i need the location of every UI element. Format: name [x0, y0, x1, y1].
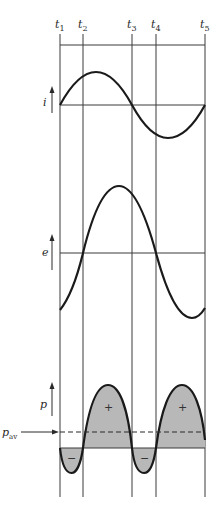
arrow-head-icon: [50, 234, 55, 241]
voltage-label: e: [42, 246, 49, 259]
positive-sign-2: +: [178, 401, 187, 414]
negative-sign-1: −: [67, 452, 76, 465]
current-label: i: [43, 96, 47, 109]
time-marker-labels: t1 t2 t3 t4 t5: [55, 18, 210, 33]
average-power-label: pav: [2, 426, 17, 441]
arrow-head-icon: [50, 382, 55, 389]
t1-label: t1: [55, 18, 65, 33]
arrow-head-icon: [50, 86, 55, 93]
t5-label: t5: [200, 18, 210, 33]
t4-label: t4: [151, 18, 161, 33]
voltage-panel: e: [42, 186, 205, 318]
current-panel: i: [43, 72, 205, 138]
negative-sign-2: −: [140, 452, 149, 465]
t3-label: t3: [127, 18, 137, 33]
power-positive-area-1: [83, 385, 132, 448]
arrow-head-icon: [52, 430, 59, 435]
power-positive-area-2: [156, 385, 205, 448]
positive-sign-1: +: [104, 401, 113, 414]
power-label: p: [40, 398, 47, 411]
power-panel: + + − − p pav: [2, 382, 205, 473]
power-waveform-figure: t1 t2 t3 t4 t5 i e: [0, 0, 224, 514]
t2-label: t2: [78, 18, 88, 33]
